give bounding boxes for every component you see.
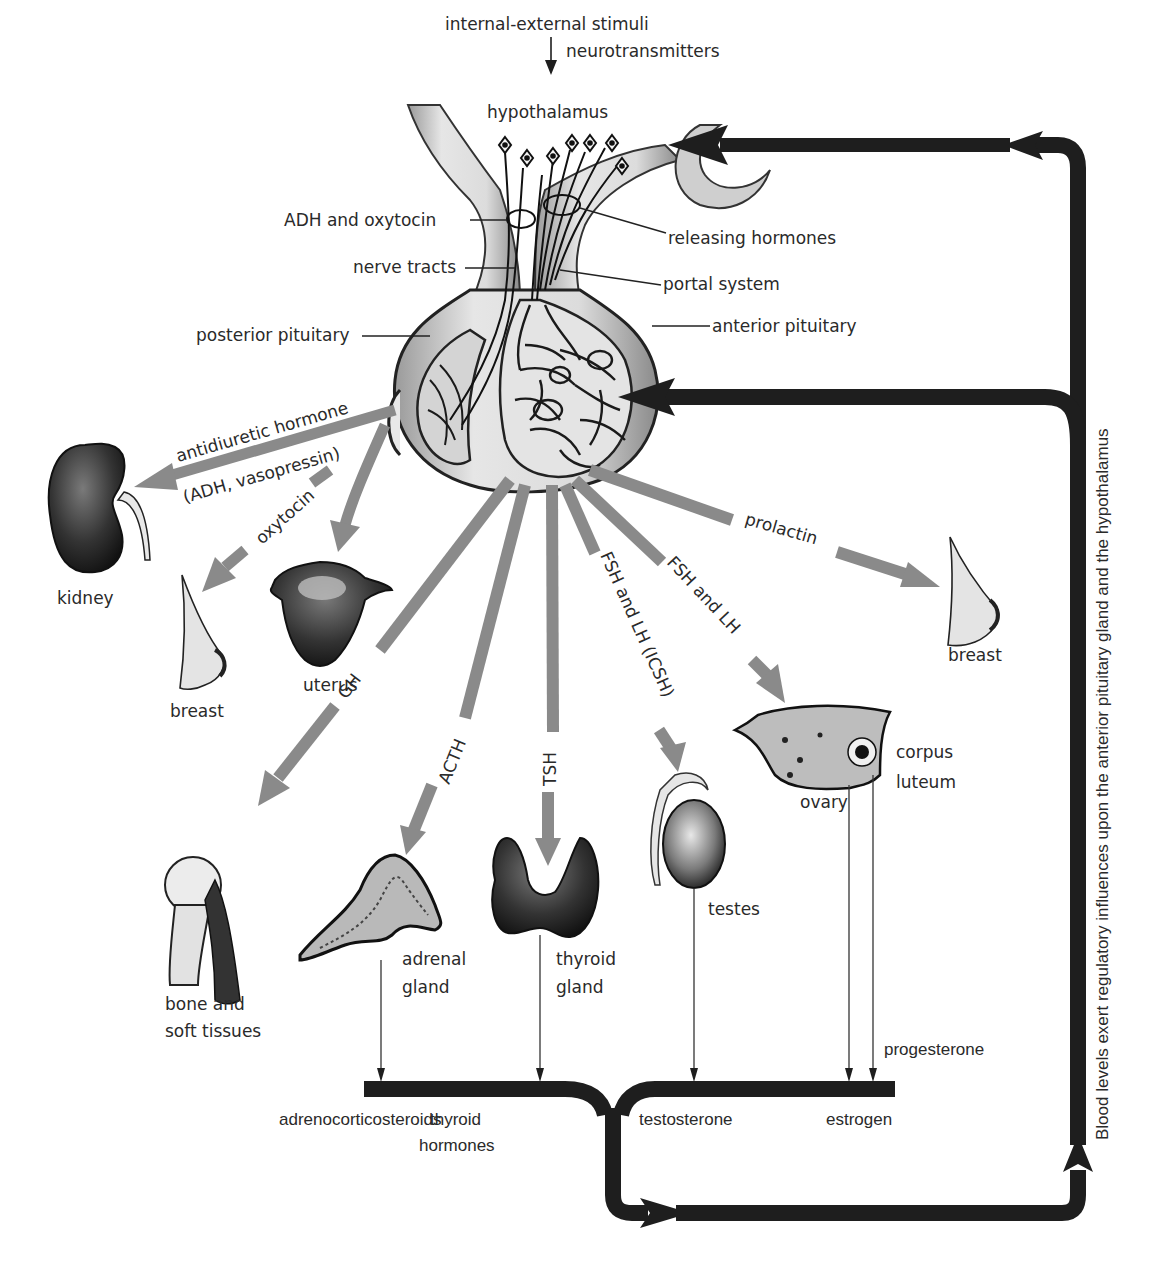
breast-right-illustration (948, 537, 999, 646)
ovary-label: ovary (800, 792, 848, 812)
prolactin-label: prolactin (743, 509, 820, 549)
fsh-lh-icsh-label: FSH and LH (ICSH) (596, 548, 678, 700)
bone-illustration (165, 857, 240, 1004)
adrenal-illustration (300, 855, 441, 960)
testosterone-label: testosterone (639, 1110, 733, 1129)
breast-left-illustration (180, 575, 225, 689)
stimuli-label: internal-external stimuli (445, 14, 649, 34)
uterus-label: uterus (303, 675, 358, 695)
oxytocin-uterus-arrow (330, 425, 385, 552)
endocrine-diagram: internal-external stimuli neurotransmitt… (0, 0, 1159, 1262)
releasing-hormones-label: releasing hormones (668, 228, 836, 248)
anterior-pituitary-label: anterior pituitary (712, 316, 857, 336)
testes-label: testes (708, 899, 760, 919)
bone-label-line2: soft tissues (165, 1021, 261, 1041)
nerve-tracts-label: nerve tracts (353, 257, 456, 277)
corpus-luteum-label-line2: luteum (896, 772, 956, 792)
adh-oxytocin-label: ADH and oxytocin (284, 210, 436, 230)
adrenal-label-line1: adrenal (402, 949, 466, 969)
stimuli-arrow-head-icon (545, 60, 557, 75)
secretion-arrows (377, 775, 877, 1082)
header-group: internal-external stimuli neurotransmitt… (445, 14, 720, 122)
ovary-illustration (735, 706, 890, 789)
testes-illustration (651, 773, 725, 888)
target-organs: kidney breast uterus breast bone and sof… (49, 444, 1002, 1041)
bone-label-line1: bone and (165, 994, 245, 1014)
breast-left-label: breast (170, 701, 224, 721)
kidney-illustration (49, 444, 150, 573)
adrenocorticosteroids-label: adrenocorticosteroids (279, 1110, 442, 1129)
neurotransmitters-label: neurotransmitters (566, 41, 720, 61)
thyroid-gland-label-line1: thyroid (556, 949, 616, 969)
hypothalamus-label: hypothalamus (487, 102, 608, 122)
estrogen-label: estrogen (826, 1110, 892, 1129)
posterior-pituitary-label: posterior pituitary (196, 325, 350, 345)
thyroid-hormones-label-line1: thyroid (430, 1110, 481, 1129)
adrenal-label-line2: gland (402, 977, 450, 997)
thyroid-gland-label-line2: gland (556, 977, 604, 997)
acth-label: ACTH (434, 736, 470, 786)
oxytocin-label: oxytocin (251, 485, 318, 548)
progesterone-label: progesterone (884, 1040, 984, 1059)
corpus-luteum-label-line1: corpus (896, 742, 953, 762)
tsh-arrow (535, 485, 561, 866)
adh-oxytocin-ellipse (507, 210, 535, 228)
thyroid-hormones-label-line2: hormones (419, 1136, 495, 1155)
pituitary-illustration (389, 105, 770, 492)
kidney-label: kidney (57, 588, 114, 608)
uterus-illustration (271, 562, 392, 666)
mammillary-body (676, 125, 770, 208)
feedback-caption: Blood levels exert regulatory influences… (1093, 428, 1112, 1140)
portal-system-label: portal system (663, 274, 780, 294)
fsh-lh-label: FSH and LH (663, 552, 745, 637)
tsh-label: TSH (540, 752, 560, 787)
breast-right-label: breast (948, 645, 1002, 665)
